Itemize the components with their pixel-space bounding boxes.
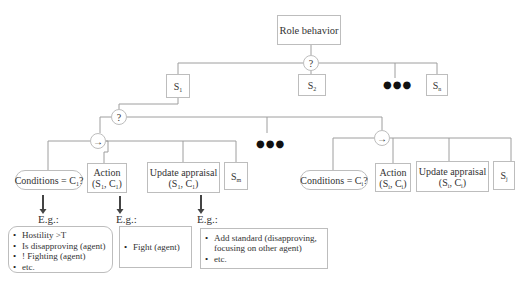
ellipsis-states: ●●● bbox=[383, 79, 412, 90]
role-behavior-label: Role behavior bbox=[279, 25, 338, 36]
state-s1: S1 bbox=[166, 74, 190, 98]
example-update-item: Add standard (disapproving, focusing on … bbox=[205, 233, 323, 254]
state-s2: S2 bbox=[298, 74, 326, 96]
update-appraisal-si-ci: Update appraisal (Si, Ci) bbox=[416, 161, 489, 192]
selector-symbol: ? bbox=[309, 58, 313, 69]
action-si-ci: Action (Si, Ci) bbox=[375, 163, 411, 192]
example-label-conditions: E.g.: bbox=[38, 213, 59, 225]
condition-c1: Conditions = C1? bbox=[15, 170, 83, 190]
sequence-node-right: → bbox=[374, 130, 390, 146]
state-sm: Sm bbox=[224, 162, 248, 190]
state-sj: Sj bbox=[493, 161, 515, 190]
role-behavior-node: Role behavior bbox=[277, 15, 341, 45]
example-condition-item: Hostility >T bbox=[13, 230, 108, 241]
state-sn: Sn bbox=[426, 74, 448, 96]
update-appraisal-s1-c1: Update appraisal (S1, C1) bbox=[147, 162, 220, 193]
condition-ci: Conditions = Ci? bbox=[300, 170, 368, 190]
example-condition-item: etc. bbox=[13, 262, 108, 273]
example-action-box: Fight (agent) bbox=[119, 226, 192, 268]
sequence-node-left: → bbox=[90, 133, 106, 149]
example-conditions-box: Hostility >T Is disapproving (agent) ! F… bbox=[8, 226, 113, 273]
example-condition-item: ! Fighting (agent) bbox=[13, 251, 108, 262]
example-update-box: Add standard (disapproving, focusing on … bbox=[200, 228, 328, 269]
ellipsis-sequences: ●●● bbox=[256, 138, 285, 149]
example-update-item: etc. bbox=[205, 254, 323, 265]
selector-node-top: ? bbox=[303, 55, 319, 71]
example-label-update: E.g.: bbox=[197, 213, 218, 225]
example-action-item: Fight (agent) bbox=[124, 242, 180, 253]
action-s1-c1: Action (S1, C1) bbox=[87, 163, 127, 193]
example-condition-item: Is disapproving (agent) bbox=[13, 241, 108, 252]
example-label-action: E.g.: bbox=[116, 213, 137, 225]
selector-node-s1: ? bbox=[111, 109, 127, 125]
